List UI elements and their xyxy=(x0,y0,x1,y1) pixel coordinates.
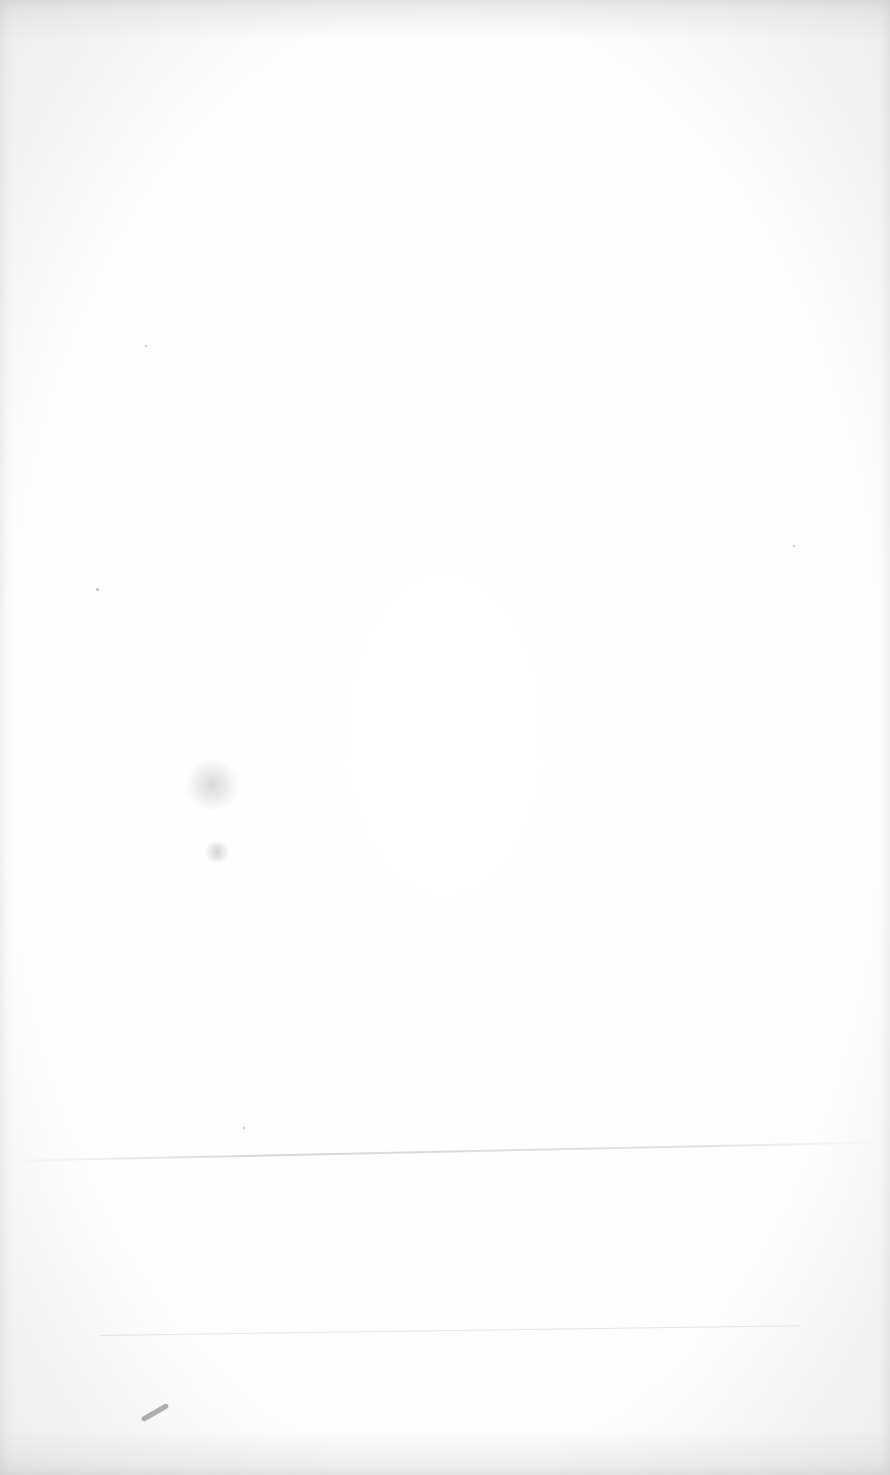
paper-speck xyxy=(793,545,795,547)
page-bottom-shadow xyxy=(0,1430,890,1475)
pen-mark xyxy=(141,1403,169,1422)
ink-smudge xyxy=(185,760,240,810)
paper-speck xyxy=(243,1127,245,1129)
paper-speck xyxy=(96,588,99,591)
ink-smudge xyxy=(202,842,232,862)
blank-page xyxy=(0,0,890,1475)
paper-speck xyxy=(145,345,147,347)
paper-crease xyxy=(0,1141,890,1162)
paper-crease xyxy=(100,1325,800,1336)
page-top-shadow xyxy=(0,0,890,40)
